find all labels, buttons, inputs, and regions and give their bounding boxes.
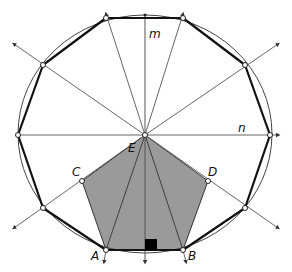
vertex-top-left <box>104 16 109 21</box>
label-C: C <box>72 165 81 179</box>
label-E: E <box>128 141 136 155</box>
vertex-B <box>181 248 186 253</box>
label-B: B <box>188 249 196 263</box>
vertex-lower-left <box>41 206 46 211</box>
center-E <box>143 133 148 138</box>
vertex-upper-right <box>243 63 248 68</box>
label-m: m <box>149 27 161 41</box>
vertex-C <box>80 179 85 184</box>
vertex-lower-right <box>243 206 248 211</box>
vertex-top-right <box>181 16 186 21</box>
label-A: A <box>90 249 99 263</box>
ray-top-left <box>106 14 145 135</box>
right-angle-marker <box>145 239 157 250</box>
top-midpoint <box>144 14 147 17</box>
label-n: n <box>238 121 246 135</box>
vertex-D <box>206 179 211 184</box>
vertex-left <box>16 133 21 138</box>
vertex-right <box>268 133 273 138</box>
ray-upper-right <box>145 44 278 135</box>
vertex-A <box>104 248 109 253</box>
label-D: D <box>208 165 217 179</box>
vertex-upper-left <box>41 63 46 68</box>
decagon-pentagon-diagram: m n E C D A B <box>0 0 292 272</box>
